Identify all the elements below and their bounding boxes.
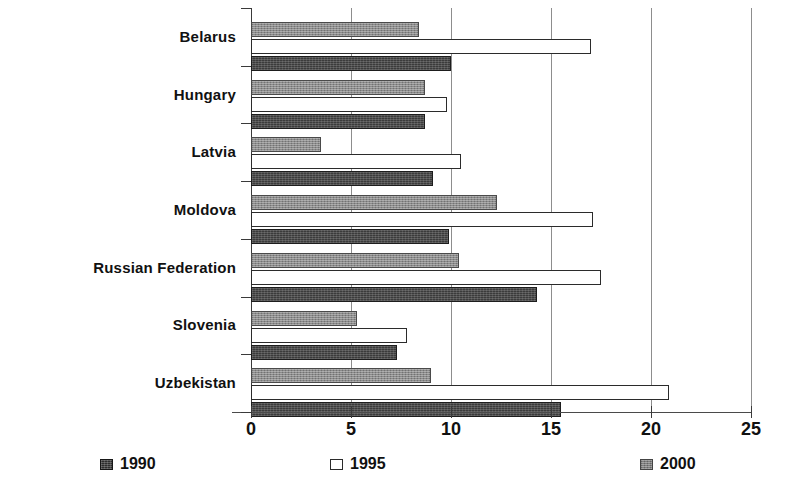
bar-1990-uzbekistan bbox=[251, 402, 561, 417]
bar-1995-uzbekistan bbox=[251, 385, 669, 400]
legend-swatch-icon-1995 bbox=[330, 459, 343, 470]
legend-swatch-icon-2000 bbox=[640, 459, 653, 470]
y-axis-tick bbox=[241, 123, 251, 124]
bar-1995-russian-federation bbox=[251, 270, 601, 285]
bar-1995-slovenia bbox=[251, 328, 407, 343]
x-axis-tick bbox=[251, 406, 252, 418]
y-axis-tick bbox=[241, 412, 251, 413]
bar-1995-hungary bbox=[251, 97, 447, 112]
bar-1990-belarus bbox=[251, 56, 451, 71]
category-label: Uzbekistan bbox=[155, 375, 236, 390]
gridline bbox=[751, 8, 752, 412]
x-axis-line bbox=[232, 412, 751, 413]
x-axis-tick-label: 20 bbox=[641, 420, 661, 438]
bar-2000-russian-federation bbox=[251, 253, 459, 268]
chart-legend: 199019952000 bbox=[0, 448, 786, 478]
y-axis-tick bbox=[241, 66, 251, 67]
y-axis-tick bbox=[241, 181, 251, 182]
category-label: Hungary bbox=[174, 87, 236, 102]
y-axis-tick bbox=[241, 8, 251, 9]
legend-label: 1990 bbox=[120, 456, 156, 472]
legend-label: 2000 bbox=[660, 456, 696, 472]
legend-item-1990: 1990 bbox=[100, 456, 156, 472]
bar-1990-russian-federation bbox=[251, 287, 537, 302]
x-axis-tick-label: 0 bbox=[246, 420, 256, 438]
bar-chart: BelarusHungaryLatviaMoldovaRussian Feder… bbox=[0, 0, 786, 480]
bar-1990-latvia bbox=[251, 171, 433, 186]
x-axis-tick bbox=[551, 406, 552, 418]
legend-item-2000: 2000 bbox=[640, 456, 696, 472]
x-axis-tick bbox=[651, 406, 652, 418]
category-label: Slovenia bbox=[173, 317, 236, 332]
category-label: Latvia bbox=[191, 144, 236, 159]
category-label: Belarus bbox=[180, 29, 236, 44]
legend-label: 1995 bbox=[350, 456, 386, 472]
gridline bbox=[651, 8, 652, 412]
x-axis-tick-label: 15 bbox=[541, 420, 561, 438]
bar-1990-moldova bbox=[251, 229, 449, 244]
bar-2000-uzbekistan bbox=[251, 368, 431, 383]
y-axis-tick bbox=[241, 297, 251, 298]
legend-item-1995: 1995 bbox=[330, 456, 386, 472]
x-axis-tick bbox=[451, 406, 452, 418]
bar-2000-latvia bbox=[251, 137, 321, 152]
bar-1995-belarus bbox=[251, 39, 591, 54]
bar-2000-belarus bbox=[251, 22, 419, 37]
category-label: Moldova bbox=[174, 202, 236, 217]
bar-1995-moldova bbox=[251, 212, 593, 227]
y-axis-tick bbox=[241, 354, 251, 355]
gridline bbox=[551, 8, 552, 412]
plot-area bbox=[251, 8, 751, 412]
x-axis-tick bbox=[751, 406, 752, 418]
x-axis-tick bbox=[351, 406, 352, 418]
y-axis-tick bbox=[241, 239, 251, 240]
bar-1990-hungary bbox=[251, 114, 425, 129]
bar-2000-moldova bbox=[251, 195, 497, 210]
bar-1990-slovenia bbox=[251, 345, 397, 360]
category-axis: BelarusHungaryLatviaMoldovaRussian Feder… bbox=[0, 0, 236, 412]
x-axis-tick-label: 10 bbox=[441, 420, 461, 438]
legend-swatch-icon-1990 bbox=[100, 459, 113, 470]
x-axis-tick-label: 5 bbox=[346, 420, 356, 438]
category-label: Russian Federation bbox=[93, 260, 236, 275]
bar-2000-slovenia bbox=[251, 311, 357, 326]
bar-1995-latvia bbox=[251, 154, 461, 169]
x-axis-tick-label: 25 bbox=[741, 420, 761, 438]
bar-2000-hungary bbox=[251, 80, 425, 95]
